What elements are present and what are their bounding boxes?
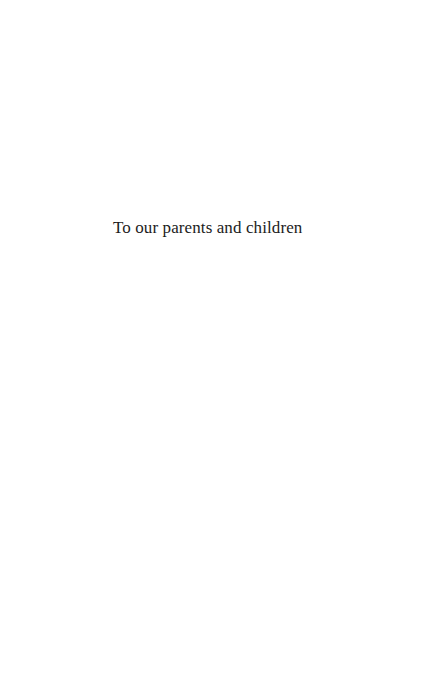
book-page: To our parents and children <box>0 0 433 698</box>
dedication-text: To our parents and children <box>113 217 302 239</box>
